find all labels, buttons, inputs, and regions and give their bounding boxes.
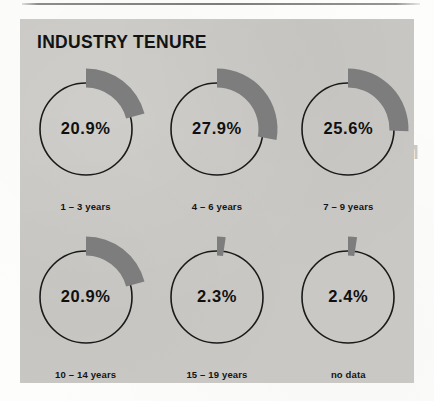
donut-graphic: 20.9% xyxy=(22,65,150,193)
donut-graphic: 2.4% xyxy=(284,233,412,361)
top-horizontal-rule xyxy=(22,3,420,5)
donut-category-label: 4 – 6 years xyxy=(192,201,242,212)
donut-value-wedge xyxy=(86,237,145,287)
scanned-page: What Is Community Management? INDUSTRY T… xyxy=(0,0,434,401)
donut-value-label: 20.9% xyxy=(22,287,150,306)
donut-graphic: 2.3% xyxy=(153,233,281,361)
donut-category-label: 7 – 9 years xyxy=(323,201,373,212)
bleedthrough-body-text xyxy=(38,388,40,395)
donut-chart-7-9-years: 25.6% 7 – 9 years xyxy=(283,65,414,233)
donut-value-label: 25.6% xyxy=(284,119,412,138)
donut-value-label: 20.9% xyxy=(22,119,150,138)
donut-value-wedge xyxy=(348,237,357,256)
donut-graphic: 20.9% xyxy=(22,233,150,361)
donut-value-label: 27.9% xyxy=(153,119,281,138)
donut-chart-no-data: 2.4% no data xyxy=(283,233,414,383)
chart-panel: INDUSTRY TENURE 20.9% 1 – 3 years xyxy=(20,19,414,383)
donut-value-label: 2.3% xyxy=(153,287,281,306)
donut-value-wedge xyxy=(217,237,226,256)
donut-value-wedge xyxy=(86,69,145,119)
donut-chart-15-19-years: 2.3% 15 – 19 years xyxy=(151,233,282,383)
donut-graphic: 27.9% xyxy=(153,65,281,193)
donut-graphic: 25.6% xyxy=(284,65,412,193)
donut-value-label: 2.4% xyxy=(284,287,412,306)
donut-category-label: 1 – 3 years xyxy=(61,201,111,212)
donut-chart-1-3-years: 20.9% 1 – 3 years xyxy=(20,65,151,233)
donut-category-label: 10 – 14 years xyxy=(55,369,116,380)
donut-chart-4-6-years: 27.9% 4 – 6 years xyxy=(151,65,282,233)
donut-category-label: 15 – 19 years xyxy=(186,369,247,380)
donut-chart-10-14-years: 20.9% 10 – 14 years xyxy=(20,233,151,383)
donut-category-label: no data xyxy=(331,369,366,380)
page-title: INDUSTRY TENURE xyxy=(37,32,207,53)
donut-chart-grid: 20.9% 1 – 3 years 27.9% 4 – 6 years xyxy=(20,65,414,383)
